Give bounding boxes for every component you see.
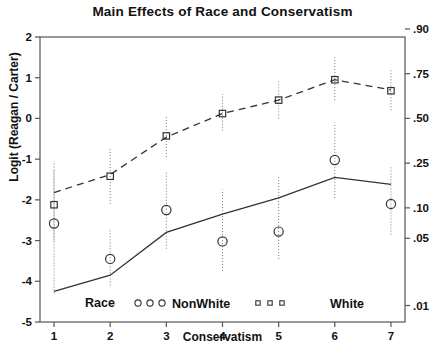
marker-circle-nonwhite	[218, 237, 227, 246]
marker-circle-nonwhite	[330, 155, 339, 164]
legend-marker-circle	[135, 300, 141, 306]
marker-circle-nonwhite	[106, 254, 115, 263]
y-tick-label: -2	[22, 194, 32, 206]
y-tick-label: -5	[22, 316, 33, 328]
y2-tick-label: .10	[413, 202, 429, 214]
y-tick-label: 1	[26, 72, 33, 84]
y2-tick-label: .05	[413, 232, 430, 244]
chart-plot-area: 210-1-2-3-4-5.90.75.50.25.10.05.01123456…	[0, 0, 445, 349]
y2-tick-label: .25	[413, 157, 430, 169]
x-axis-label: Conservatism	[0, 330, 445, 344]
legend-marker-circle	[159, 300, 165, 306]
legend-marker-square	[280, 301, 284, 305]
y-tick-label: 0	[26, 112, 32, 124]
y-tick-label: -4	[22, 275, 33, 287]
legend-marker-square	[268, 301, 272, 305]
legend-label-nonwhite: NonWhite	[172, 297, 230, 311]
y-tick-label: 2	[26, 31, 32, 43]
chart-container: Main Effects of Race and Conservatism 21…	[0, 0, 445, 349]
y2-tick-label: .50	[413, 112, 429, 124]
legend-marker-square	[256, 301, 260, 305]
legend-title: Race	[85, 296, 115, 310]
y2-tick-label: .75	[413, 68, 430, 80]
marker-square-white	[219, 110, 225, 116]
y-axis-label: Logit (Reagan / Carter)	[7, 7, 21, 227]
y2-tick-label: .01	[413, 300, 430, 312]
y-tick-label: -1	[22, 153, 33, 165]
legend-marker-circle	[147, 300, 153, 306]
legend-label-white: White	[330, 297, 364, 311]
marker-circle-nonwhite	[162, 205, 171, 214]
y-tick-label: -3	[22, 235, 32, 247]
y2-tick-label: .90	[413, 23, 429, 35]
